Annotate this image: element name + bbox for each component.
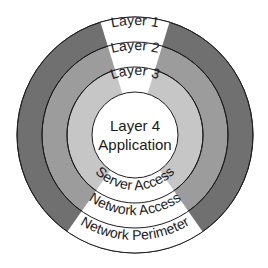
label-layer-4: Layer 4 (110, 117, 160, 134)
security-layers-diagram: Layer 1 Layer 2 Layer 3 Layer 4 Applicat… (0, 0, 268, 268)
label-layer-1: Layer 1 (109, 12, 160, 30)
label-application: Application (98, 136, 171, 153)
